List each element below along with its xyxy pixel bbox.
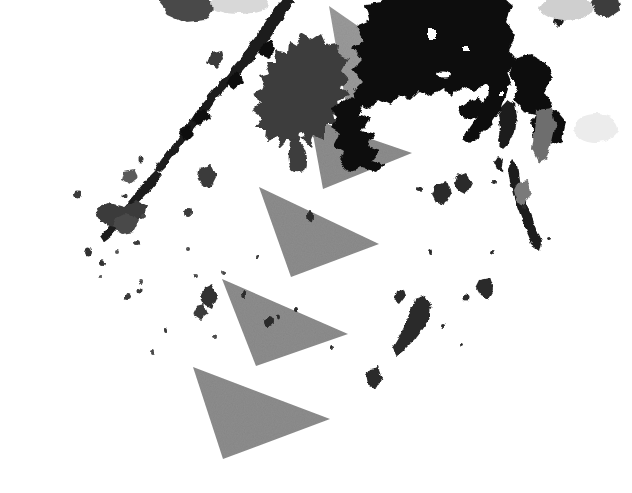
speckle-dot-22 bbox=[222, 270, 226, 274]
ink-hole-2 bbox=[463, 47, 468, 52]
speckle-dot-1 bbox=[75, 191, 81, 198]
image-canvas: Abstract high-contrast scan White field … bbox=[0, 0, 632, 493]
speckle-dot-33 bbox=[150, 350, 154, 354]
speckle-dot-20 bbox=[242, 290, 246, 298]
speckle-dot-10 bbox=[185, 208, 191, 216]
speckle-dot-29 bbox=[522, 204, 526, 208]
speckle-dot-23 bbox=[464, 296, 469, 301]
speckle-dot-26 bbox=[492, 250, 496, 254]
speckle-dot-7 bbox=[138, 288, 143, 293]
speckle-dot-16 bbox=[307, 210, 313, 222]
speckle-dot-21 bbox=[256, 256, 260, 260]
speckle-dot-31 bbox=[492, 180, 496, 184]
speckle-dot-25 bbox=[458, 344, 462, 348]
speckle-dot-8 bbox=[140, 158, 145, 163]
ink-hole-1 bbox=[428, 30, 436, 38]
speckle-dot-35 bbox=[212, 336, 216, 340]
speckle-dot-28 bbox=[546, 236, 550, 240]
ink-hole-3 bbox=[437, 71, 451, 78]
speckle-dot-15 bbox=[264, 318, 272, 326]
speckle-dot-17 bbox=[276, 316, 280, 321]
abstract-scan-scene bbox=[0, 0, 632, 493]
speckle-dot-32 bbox=[164, 327, 168, 333]
smudge-mid-right bbox=[574, 114, 618, 142]
speckle-dot-34 bbox=[194, 274, 198, 278]
speckle-dot-18 bbox=[294, 306, 298, 312]
speckle-dot-4 bbox=[99, 259, 105, 265]
speckle-dot-13 bbox=[125, 293, 131, 299]
large-dark-blob-hole-2 bbox=[299, 132, 306, 138]
speckle-dot-19 bbox=[330, 346, 334, 350]
speckle-dot-14 bbox=[98, 274, 102, 278]
speckle-dot-11 bbox=[186, 248, 190, 252]
speckle-dot-6 bbox=[133, 239, 139, 245]
speckle-dot-24 bbox=[442, 324, 446, 328]
speckle-dot-5 bbox=[114, 250, 118, 254]
speckle-dot-27 bbox=[428, 249, 432, 255]
speckle-dot-12 bbox=[140, 280, 144, 284]
ink-hole-5 bbox=[498, 92, 502, 96]
speckle-dot-3 bbox=[84, 248, 92, 257]
speckle-dot-30 bbox=[417, 187, 423, 193]
speckle-dot-2 bbox=[122, 194, 127, 199]
speckle-dot-9 bbox=[142, 214, 146, 218]
